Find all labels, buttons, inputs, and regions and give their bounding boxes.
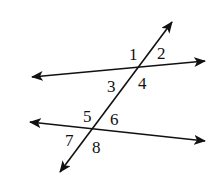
angle-label-2: 2 <box>157 44 166 63</box>
angle-label-6: 6 <box>110 110 119 129</box>
transversal-line <box>60 22 172 172</box>
angle-label-1: 1 <box>129 45 138 64</box>
angle-label-8: 8 <box>92 138 101 157</box>
parallel-lines-transversal-figure: 1 2 3 4 5 6 7 8 <box>0 0 220 195</box>
upper-line <box>32 61 205 77</box>
diagram-canvas: 1 2 3 4 5 6 7 8 <box>0 0 220 195</box>
angle-label-5: 5 <box>83 107 92 126</box>
angle-label-4: 4 <box>138 74 147 93</box>
angle-label-7: 7 <box>65 131 74 150</box>
angle-label-3: 3 <box>107 77 116 96</box>
